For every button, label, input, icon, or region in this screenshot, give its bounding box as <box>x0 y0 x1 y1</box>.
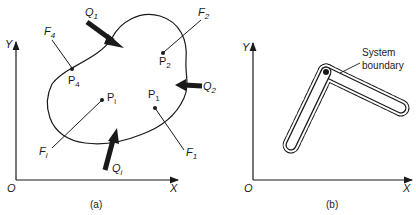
force-line-fi <box>52 100 102 148</box>
label-q2: Q2 <box>203 80 217 95</box>
x-axis-label: X <box>402 182 411 194</box>
force-line-f2 <box>164 20 201 52</box>
label-p2: P2 <box>159 55 171 70</box>
origin-label: O <box>244 182 253 194</box>
heat-arrow-q1 <box>87 22 124 48</box>
point-p1 <box>153 106 157 110</box>
panel-b: Y O X System boundary (b) <box>242 41 412 210</box>
boundary-label-line2: boundary <box>362 60 404 71</box>
y-axis-label: Y <box>242 41 250 53</box>
caption-a: (a) <box>90 199 102 210</box>
label-f2: F2 <box>198 6 210 21</box>
label-pi: Pi <box>107 91 116 106</box>
x-axis-label: X <box>169 182 178 194</box>
label-qi: Qi <box>112 162 123 177</box>
label-p4: P4 <box>68 74 80 89</box>
panel-a: Y O X Q1 Q2 Qi F4 P4 F2 P2 <box>5 6 217 210</box>
caption-b: (b) <box>326 199 338 210</box>
diagram-canvas: Y O X Q1 Q2 Qi F4 P4 F2 P2 <box>0 0 416 215</box>
force-line-f1 <box>155 108 184 150</box>
label-f4: F4 <box>44 25 56 40</box>
heat-arrow-q2 <box>175 79 202 91</box>
link-1 <box>291 72 326 145</box>
point-pi <box>100 98 104 102</box>
force-line-f4 <box>52 40 72 68</box>
point-p4 <box>70 67 74 71</box>
y-axis-label: Y <box>5 38 13 50</box>
label-f1: F1 <box>186 146 197 161</box>
pin-joint <box>323 69 329 75</box>
label-fi: Fi <box>39 145 48 160</box>
boundary-leader-line <box>340 63 360 73</box>
origin-label: O <box>7 182 16 194</box>
link-2 <box>326 72 401 108</box>
boundary-label-line1: System <box>362 47 395 58</box>
label-p1: P1 <box>148 88 160 103</box>
label-q1: Q1 <box>85 6 98 21</box>
